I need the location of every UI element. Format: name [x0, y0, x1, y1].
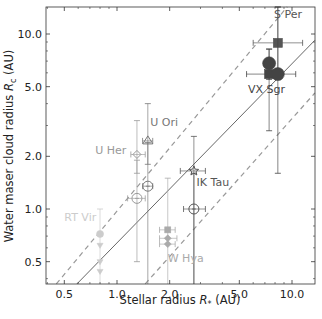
y-tick-label: 10.0: [18, 28, 43, 41]
marker-triangle-down: [97, 243, 103, 248]
x-tick-label: 10.0: [280, 288, 305, 301]
y-axis-label: Water maser cloud radius Rc (AU): [2, 50, 18, 243]
y-tick-label: 0.5: [25, 256, 43, 269]
star-label: U Her: [95, 144, 127, 157]
scatter-chart: S PerVX SgrU OriU HerIK TauW HyaRT Vir 0…: [0, 0, 322, 319]
star-rt-vir: [97, 209, 104, 284]
star-w-hya: [160, 178, 177, 284]
marker-triangle-down: [97, 269, 103, 274]
y-tick-label: 1.0: [25, 203, 43, 216]
y-tick-label: 5.0: [25, 81, 43, 94]
star-label: W Hya: [168, 252, 204, 265]
star-label: U Ori: [150, 116, 178, 129]
marker-diamond: [164, 241, 171, 248]
marker-circle: [97, 230, 104, 237]
star-label: VX Sgr: [248, 83, 286, 96]
star-label: S Per: [274, 8, 302, 21]
upper-dashed-line: [56, 7, 287, 284]
star-label: IK Tau: [197, 176, 230, 189]
x-tick-label: 0.5: [56, 288, 74, 301]
marker-circle: [271, 68, 284, 81]
y-tick-label: 2.0: [25, 150, 43, 163]
plot-frame: [46, 7, 315, 284]
star-label: RT Vir: [64, 211, 96, 224]
x-axis-label: Stellar radius R* (AU): [120, 293, 241, 309]
data-points: [97, 7, 303, 284]
star-u-ori: [143, 104, 153, 284]
